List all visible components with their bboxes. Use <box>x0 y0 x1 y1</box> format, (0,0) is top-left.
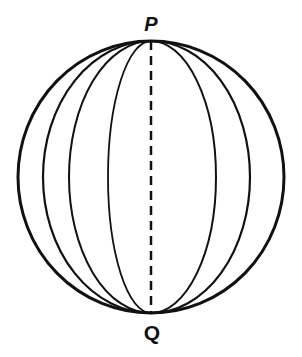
sphere-diagram: P Q <box>0 0 302 357</box>
label-q: Q <box>144 321 160 344</box>
meridian-right-2 <box>151 41 216 313</box>
meridian-left-3 <box>108 41 151 313</box>
meridian-left-1 <box>43 41 151 313</box>
label-p: P <box>144 13 158 35</box>
meridian-right-1 <box>151 41 250 313</box>
meridian-left-2 <box>69 41 151 313</box>
